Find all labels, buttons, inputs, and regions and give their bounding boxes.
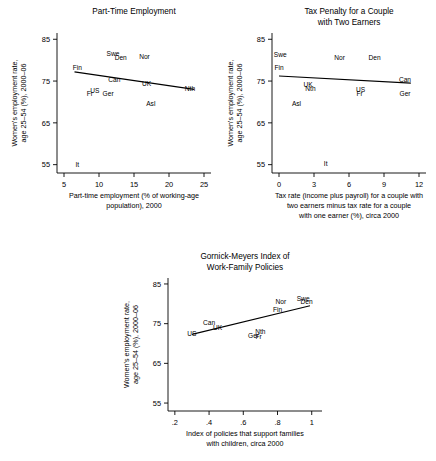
y-tick-label: 85 (153, 280, 161, 289)
x-axis-label-line: two earners minus tax rate for a couple (287, 201, 411, 210)
x-tick-label: 9 (382, 180, 386, 189)
y-tick-label: 55 (257, 160, 265, 169)
data-point-label: Fr (356, 90, 363, 97)
data-point-label: Asl (146, 100, 156, 107)
data-point-label: Nor (276, 298, 287, 305)
data-point-label: Den (301, 298, 313, 305)
chart-title-line: Work-Family Policies (207, 263, 283, 272)
x-axis-label-line: with children, circa 2000 (205, 439, 283, 448)
data-point-label: Can (399, 76, 411, 83)
data-point-label: UK (142, 80, 152, 87)
data-point-label: It (324, 160, 328, 167)
chart-svg-gornick-meyers-index: Gornick-Meyers Index ofWork-Family Polic… (98, 230, 348, 461)
chart-panel-part-time-employment: Part-Time Employment55657585510152025Fin… (0, 0, 218, 222)
x-axis-label-line: with one earner (%), circa 2000 (298, 211, 399, 220)
y-axis-label-line: Women's employment rate, (10, 59, 19, 146)
y-tick-label: 65 (153, 359, 161, 368)
data-point-label: Nor (139, 53, 150, 60)
chart-panel-tax-penalty: Tax Penalty for a Couplewith Two Earners… (218, 0, 436, 232)
data-point-label: Ger (400, 90, 412, 97)
y-axis-label-line: Women's employment rate, (122, 301, 131, 388)
data-point-label: Nth (185, 85, 196, 92)
data-point-label: Den (115, 54, 127, 61)
data-point-label: Den (369, 54, 381, 61)
y-tick-label: 65 (42, 119, 50, 128)
x-tick-label: 10 (95, 180, 103, 189)
data-point-label: US (187, 330, 197, 337)
data-point-label: Ger (103, 90, 115, 97)
y-axis-label-line: Women's employment rate, (226, 59, 235, 146)
chart-title-line: Tax Penalty for a Couple (304, 7, 394, 16)
y-axis-label-line: age 25–54 (%), 2000–06 (19, 63, 28, 142)
chart-title-line: Gornick-Meyers Index of (200, 252, 290, 261)
x-tick-label: 5 (62, 180, 66, 189)
x-tick-label: .8 (274, 418, 280, 427)
x-tick-label: 25 (200, 180, 208, 189)
x-axis-label-line: population), 2000 (106, 201, 162, 210)
data-point-label: Nth (305, 85, 316, 92)
y-tick-label: 75 (153, 319, 161, 328)
x-tick-label: 6 (347, 180, 351, 189)
x-tick-label: 1 (310, 418, 314, 427)
chart-panel-gornick-meyers-index: Gornick-Meyers Index ofWork-Family Polic… (98, 230, 348, 461)
y-tick-label: 65 (257, 119, 265, 128)
data-point-label: Nth (255, 328, 266, 335)
y-tick-label: 85 (42, 35, 50, 44)
data-point-label: Can (108, 76, 120, 83)
data-point-label: Fr (87, 90, 94, 97)
chart-title-line: Part-Time Employment (92, 7, 176, 16)
x-axis-label-line: Tax rate (income plus payroll) for a cou… (275, 191, 423, 200)
chart-svg-tax-penalty: Tax Penalty for a Couplewith Two Earners… (218, 0, 436, 232)
y-tick-label: 55 (153, 399, 161, 408)
x-tick-label: 3 (312, 180, 316, 189)
x-tick-label: .4 (206, 418, 212, 427)
x-tick-label: 20 (165, 180, 173, 189)
data-point-label: Swe (274, 51, 287, 58)
data-point-label: Fin (273, 306, 282, 313)
regression-fit-line (279, 76, 411, 83)
data-point-label: UK (213, 324, 223, 331)
chart-svg-part-time-employment: Part-Time Employment55657585510152025Fin… (0, 0, 218, 222)
y-tick-label: 75 (257, 77, 265, 86)
y-axis-label-line: age 25–54 (%), 2000–06 (131, 305, 140, 384)
x-tick-label: 15 (130, 180, 138, 189)
data-point-label: It (75, 161, 79, 168)
x-tick-label: 0 (277, 180, 281, 189)
x-axis-label-line: Index of policies that support families (186, 429, 304, 438)
data-point-label: Nor (334, 54, 345, 61)
data-point-label: Asl (292, 100, 302, 107)
x-tick-label: .2 (172, 418, 178, 427)
data-point-label: Fin (73, 64, 82, 71)
x-tick-label: 12 (415, 180, 423, 189)
x-tick-label: .6 (240, 418, 246, 427)
y-tick-label: 75 (42, 77, 50, 86)
chart-axes (57, 33, 211, 173)
data-point-label: Fin (274, 64, 283, 71)
x-axis-label-line: Part-time employment (% of working-age (69, 191, 199, 200)
chart-title-line: with Two Earners (317, 18, 381, 27)
y-tick-label: 55 (42, 160, 50, 169)
y-axis-label-line: age 25–54 (%), 2000–06 (235, 63, 244, 142)
y-tick-label: 85 (257, 35, 265, 44)
